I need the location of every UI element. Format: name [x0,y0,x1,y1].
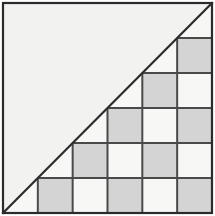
checkerboard-cell [177,143,212,178]
checkerboard-cell [142,178,177,213]
figure-container [0,0,215,216]
checkerboard-cell [73,178,108,213]
checkerboard-cell [107,143,142,178]
checkerboard-cell [107,178,142,213]
geometric-figure [0,0,215,216]
checkerboard-cell [142,73,177,108]
checkerboard-cell [177,38,212,73]
checkerboard-cell [38,178,73,213]
checkerboard-cell [177,108,212,143]
checkerboard-cell [177,178,212,213]
checkerboard-cell [107,108,142,143]
checkerboard-cell [73,143,108,178]
checkerboard-cell [177,73,212,108]
checkerboard-cell [142,108,177,143]
checkerboard-cell [142,143,177,178]
